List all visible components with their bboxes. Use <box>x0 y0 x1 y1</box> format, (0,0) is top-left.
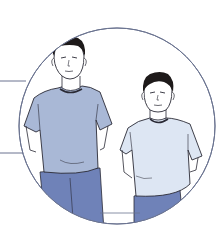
illustration-canvas: Two men standing in t-shirts inside a ci… <box>0 0 224 232</box>
callout-illustration <box>0 0 224 232</box>
